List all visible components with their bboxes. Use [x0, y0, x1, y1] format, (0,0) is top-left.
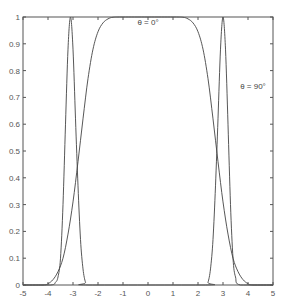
x-tick-label: -4 [44, 289, 52, 298]
x-tick-label: -2 [94, 289, 102, 298]
y-tick-label: 0.4 [9, 174, 21, 183]
x-tick-label: 5 [271, 289, 276, 298]
series-annotation-label: θ = 0° [137, 18, 158, 27]
y-tick-label: 0.3 [9, 201, 21, 210]
y-axis-ticks: 00.10.20.30.40.50.60.70.80.91 [9, 13, 273, 290]
annotations: θ = 0°θ = 90° [137, 18, 265, 91]
x-axis-ticks: -5-4-3-2-1012345 [19, 17, 275, 298]
y-tick-label: 0.2 [9, 227, 21, 236]
y-tick-label: 1 [16, 13, 21, 22]
x-tick-label: -1 [119, 289, 127, 298]
line-chart: -5-4-3-2-1012345 00.10.20.30.40.50.60.70… [0, 0, 304, 304]
series-layer [23, 17, 273, 285]
x-tick-label: 4 [246, 289, 251, 298]
y-tick-label: 0.9 [9, 40, 21, 49]
series-line-1 [23, 17, 273, 285]
y-tick-label: 0.5 [9, 147, 21, 156]
series-annotation-label: θ = 90° [240, 82, 266, 91]
y-tick-label: 0.6 [9, 120, 21, 129]
series-line-0 [23, 17, 273, 285]
x-tick-label: -3 [69, 289, 77, 298]
y-tick-label: 0.8 [9, 67, 21, 76]
x-tick-label: 3 [221, 289, 226, 298]
axes-frame [23, 17, 273, 285]
x-tick-label: 2 [196, 289, 201, 298]
chart-canvas: -5-4-3-2-1012345 00.10.20.30.40.50.60.70… [0, 0, 304, 304]
y-tick-label: 0 [16, 281, 21, 290]
x-tick-label: 1 [171, 289, 176, 298]
x-tick-label: 0 [146, 289, 151, 298]
y-tick-label: 0.7 [9, 93, 21, 102]
x-tick-label: -5 [19, 289, 27, 298]
y-tick-label: 0.1 [9, 254, 21, 263]
